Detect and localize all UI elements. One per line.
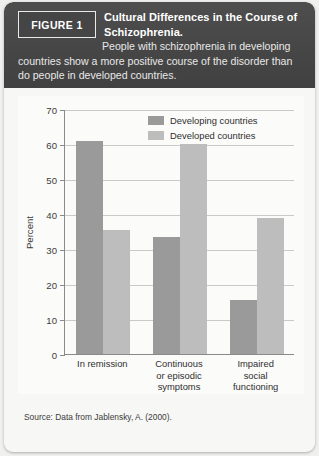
legend-swatch [148, 131, 164, 140]
y-axis-title: Percent [24, 110, 35, 355]
y-axis-tick-label: 20 [46, 280, 57, 291]
figure-number-label: FIGURE 1 [31, 19, 83, 31]
figure-subtitle: People with schizophrenia in developing … [18, 39, 305, 83]
figure-screenshot: FIGURE 1 Cultural Differences in the Cou… [0, 0, 319, 456]
bar [76, 141, 103, 355]
x-axis-label-line: Continuous [141, 358, 218, 370]
bar [230, 300, 257, 354]
plot-area: 010203040506070 [64, 110, 294, 355]
bar [257, 218, 284, 355]
x-axis-label-line: or episodic [141, 370, 218, 382]
x-axis-label-line: functioning [217, 381, 294, 393]
bar [153, 237, 180, 354]
x-axis-label: In remission [64, 358, 141, 370]
bar [180, 144, 207, 354]
x-axis-label-line: social [217, 370, 294, 382]
y-axis-tick-label: 70 [46, 105, 57, 116]
y-axis-tick-label: 10 [46, 315, 57, 326]
y-axis-tick-label: 50 [46, 175, 57, 186]
legend-item: Developing countries [148, 114, 298, 127]
x-axis-label: Impairedsocialfunctioning [217, 358, 294, 393]
bar-group [65, 110, 142, 354]
bar-group [142, 110, 219, 354]
figure-header: FIGURE 1 Cultural Differences in the Cou… [4, 2, 315, 88]
y-axis-title-label: Percent [24, 216, 35, 249]
figure-number-badge: FIGURE 1 [18, 11, 96, 38]
figure-title: Cultural Differences in the Course of Sc… [104, 10, 302, 39]
legend-label: Developed countries [170, 130, 255, 141]
x-axis-label-line: symptoms [141, 381, 218, 393]
legend-item: Developed countries [148, 129, 298, 142]
bar [103, 230, 130, 354]
y-axis-tick-label: 40 [46, 210, 57, 221]
y-axis-tick-label: 0 [52, 350, 57, 361]
chart-legend: Developing countriesDeveloped countries [148, 114, 298, 144]
bar-group [218, 110, 295, 354]
legend-swatch [148, 116, 164, 125]
y-axis-tick [60, 355, 65, 356]
y-axis-tick-label: 30 [46, 245, 57, 256]
figure-subtitle-text: People with schizophrenia in developing … [18, 40, 292, 81]
chart-panel: Percent 010203040506070 In remissionCont… [18, 96, 304, 394]
x-axis-label-line: Impaired [217, 358, 294, 370]
x-axis-labels: In remissionContinuousor episodicsymptom… [64, 358, 294, 398]
figure-card: FIGURE 1 Cultural Differences in the Cou… [4, 2, 315, 452]
x-axis-label: Continuousor episodicsymptoms [141, 358, 218, 393]
legend-label: Developing countries [170, 115, 258, 126]
x-axis-label-line: In remission [64, 358, 141, 370]
bars-group [65, 110, 294, 354]
figure-source: Source: Data from Jablensky, A. (2000). [24, 412, 172, 422]
y-axis-tick-label: 60 [46, 140, 57, 151]
